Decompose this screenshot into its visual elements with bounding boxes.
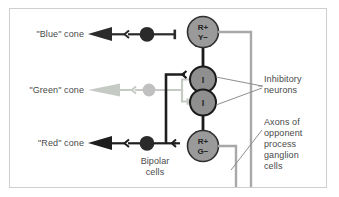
diagram-canvas: "Blue" cone "Green" cone "Red" cone R+ Y… (0, 0, 339, 197)
green-synapse-cone-bipolar (132, 87, 143, 94)
blue-cone-arrow (88, 27, 125, 41)
red-synapse-cone-bipolar (125, 140, 141, 148)
ganglion-cell-ry (188, 17, 219, 48)
blue-synapse-cone-bipolar (125, 31, 141, 39)
inhibitory-lower-label: I (193, 99, 213, 107)
ganglion-cell-rg (188, 131, 219, 162)
annotation-inhibitory-neurons: Inhibitory neurons (264, 74, 334, 96)
cone-label-red: "Red" cone (18, 138, 84, 149)
bipolar-cell-red (140, 136, 155, 151)
bipolar-cell-green (143, 84, 156, 97)
red-cone-arrow (88, 136, 125, 150)
annotation-bipolar-cells: Bipolar cells (125, 156, 185, 178)
cone-label-blue: "Blue" cone (18, 29, 84, 40)
inhibitory-upper-label: I (193, 76, 213, 84)
cone-label-green: "Green" cone (12, 85, 84, 96)
ganglion-rg-label-top: R+ (193, 138, 213, 146)
annotation-axons-ganglion: Axons of opponent process ganglion cells (264, 117, 334, 172)
green-cone-arrow (88, 84, 132, 97)
ganglion-ry-label-bottom: Y− (193, 34, 213, 42)
leader-inhibitory (216, 77, 263, 105)
blue-synapse-bipolar-ganglion (154, 30, 176, 40)
axon-ry (218, 32, 251, 187)
ganglion-ry-label-top: R+ (193, 24, 213, 32)
green-axon-bracket (155, 80, 189, 105)
ganglion-rg-label-bottom: G− (193, 148, 213, 156)
bipolar-cell-blue (140, 27, 155, 42)
red-collateral-to-inhibitory (166, 71, 187, 143)
